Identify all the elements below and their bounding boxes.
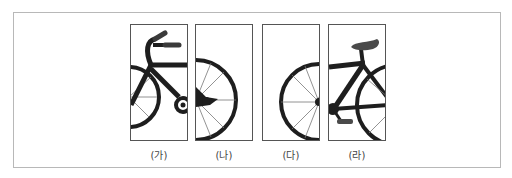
spoke (292, 75, 319, 102)
panel-label-ra: (라) (328, 147, 386, 162)
panel-label-da: (다) (262, 147, 320, 162)
crank-hub (181, 103, 186, 108)
panel-na (195, 24, 253, 141)
wheel-arc (357, 65, 386, 141)
bicycle-front-strip-image (131, 25, 188, 141)
wheel-right-half-image (196, 25, 253, 141)
panel-da (262, 24, 320, 141)
panel-label-ga: (가) (130, 147, 188, 162)
panel-label-na: (나) (195, 147, 253, 162)
seat-post (361, 49, 363, 65)
spoke (369, 105, 386, 133)
wheel-hub (202, 97, 210, 105)
figure-frame (13, 12, 501, 168)
handlebar-stem (148, 39, 155, 65)
chain-stay (333, 105, 386, 109)
spoke (305, 66, 319, 102)
panel-ga (130, 24, 188, 141)
fork-end (319, 87, 320, 102)
pedal (337, 119, 353, 124)
bicycle-seat-strip-image (329, 25, 386, 141)
wheel-left-half-image (263, 25, 320, 141)
panel-ra (328, 24, 386, 141)
seat (351, 39, 379, 50)
spoke (292, 102, 319, 129)
spoke (305, 102, 319, 138)
handlebar-grip-top (155, 33, 165, 39)
